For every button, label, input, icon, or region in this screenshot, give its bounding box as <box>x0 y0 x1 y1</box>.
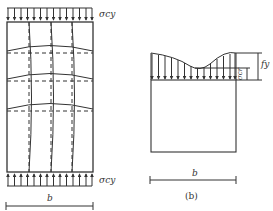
stress-arrows <box>152 53 235 79</box>
peak-stress-label-b: fy <box>261 60 269 69</box>
width-label-a: b <box>47 194 53 203</box>
width-label-b: b <box>192 169 198 178</box>
plate-b <box>151 80 236 152</box>
diagram-canvas <box>0 0 273 211</box>
top-load-arrows <box>8 8 92 20</box>
plate-a <box>7 22 93 172</box>
top-stress-label-a: σcy <box>99 10 115 19</box>
bottom-load-arrows <box>8 174 92 186</box>
figure-a <box>6 8 93 210</box>
bottom-stress-label-a: σcy <box>99 176 115 185</box>
caption-b: (b) <box>185 192 198 201</box>
stress-label-b: σcr <box>237 68 244 80</box>
figure-b <box>150 52 262 184</box>
